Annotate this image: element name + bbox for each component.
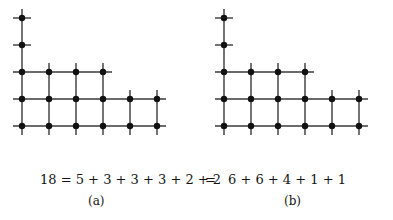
lattice-dot <box>248 123 254 129</box>
panel-b-label: (b) <box>284 194 301 208</box>
lattice-dot <box>19 42 25 48</box>
lattice-dot <box>19 96 25 102</box>
lattice-dot <box>302 69 308 75</box>
panel-a <box>8 4 194 172</box>
lattice-dot <box>356 96 362 102</box>
lattice-dot <box>329 96 335 102</box>
lattice-dot <box>302 96 308 102</box>
lattice-dot <box>275 69 281 75</box>
lattice-dot <box>19 15 25 21</box>
lattice-dot <box>127 123 133 129</box>
ferrers-diagram-a-svg <box>8 4 194 172</box>
ferrers-diagram-b-svg <box>210 4 393 172</box>
lattice-dot <box>275 123 281 129</box>
lattice-dot <box>127 96 133 102</box>
lattice-dot <box>154 96 160 102</box>
lattice-dot <box>329 123 335 129</box>
lattice-dot <box>275 96 281 102</box>
panel-b <box>210 4 393 172</box>
lattice-dot <box>19 123 25 129</box>
lattice-dot <box>100 123 106 129</box>
lattice-dot <box>46 69 52 75</box>
equation-left: 18 = 5 + 3 + 3 + 3 + 2 + 2 <box>40 172 221 187</box>
lattice-dot <box>19 69 25 75</box>
lattice-dot <box>248 96 254 102</box>
panel-a-label: (a) <box>88 194 105 208</box>
figure-container <box>0 0 393 172</box>
lattice-dot <box>221 42 227 48</box>
lattice-dot <box>46 96 52 102</box>
lattice-dot <box>154 123 160 129</box>
lattice-dot <box>73 123 79 129</box>
lattice-dot <box>221 123 227 129</box>
lattice-dot <box>73 69 79 75</box>
equation-operator: = <box>205 172 216 187</box>
subcaption-row: (a) (b) <box>0 194 393 214</box>
lattice-dot <box>356 123 362 129</box>
lattice-dot <box>221 96 227 102</box>
lattice-dot <box>46 123 52 129</box>
lattice-dot <box>221 15 227 21</box>
equation-right: 6 + 6 + 4 + 1 + 1 <box>228 172 346 187</box>
caption-row: 18 = 5 + 3 + 3 + 3 + 2 + 2 = 6 + 6 + 4 +… <box>0 172 393 194</box>
lattice-dot <box>100 96 106 102</box>
lattice-dot <box>221 69 227 75</box>
lattice-dot <box>100 69 106 75</box>
lattice-dot <box>302 123 308 129</box>
lattice-dot <box>248 69 254 75</box>
lattice-dot <box>73 96 79 102</box>
